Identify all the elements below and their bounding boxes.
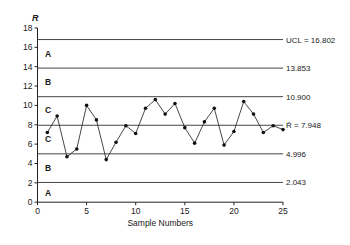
x-axis-title: Sample Numbers	[127, 218, 193, 228]
x-tick-label: 25	[278, 206, 288, 216]
data-point	[173, 102, 177, 106]
data-point	[222, 143, 226, 147]
zone-label-a: A	[45, 188, 51, 198]
data-point	[114, 140, 118, 144]
reference-label-zone-AB-upper: 13.853	[286, 64, 311, 73]
data-point	[85, 104, 89, 108]
y-tick-label: 6	[28, 139, 33, 149]
zone-label-c: C	[45, 105, 51, 115]
reference-label-zone-BC-lower: 4.996	[286, 150, 307, 159]
y-tick-label: 16	[23, 42, 33, 52]
data-point	[212, 107, 216, 111]
zone-label-b: B	[45, 77, 51, 87]
data-point	[65, 155, 69, 159]
y-axis-title: R	[32, 13, 39, 23]
zone-label-b: B	[45, 163, 51, 173]
y-tick-label: 18	[23, 23, 33, 33]
y-tick-label: 8	[28, 120, 33, 130]
data-point	[154, 98, 158, 102]
data-line	[47, 100, 283, 160]
data-point	[75, 147, 79, 151]
data-point	[104, 158, 108, 162]
data-point	[203, 120, 207, 124]
reference-label-center-line: R̄ = 7.948	[286, 121, 321, 130]
data-point	[134, 132, 138, 136]
data-point	[281, 128, 285, 132]
x-tick-label: 10	[131, 206, 141, 216]
x-tick-label: 5	[84, 206, 89, 216]
data-point	[46, 131, 50, 135]
data-point	[242, 100, 246, 104]
data-point	[252, 112, 256, 116]
data-point	[124, 124, 128, 128]
x-tick-label: 20	[229, 206, 239, 216]
data-point	[95, 118, 99, 122]
data-point	[262, 131, 266, 135]
y-tick-label: 10	[23, 100, 33, 110]
zone-label-a: A	[45, 49, 51, 59]
data-point	[183, 126, 187, 130]
data-point	[232, 130, 236, 134]
reference-label-zone-AB-lower: 2.043	[286, 178, 307, 187]
y-tick-label: 4	[28, 158, 33, 168]
y-tick-label: 0	[28, 197, 33, 207]
reference-label-zone-BC-upper: 10.900	[286, 93, 311, 102]
data-point	[55, 114, 59, 118]
chart-svg: 0246810121416180510152025RSample Numbers…	[0, 0, 350, 245]
zone-label-c: C	[45, 134, 51, 144]
y-tick-label: 2	[28, 178, 33, 188]
r-control-chart: 0246810121416180510152025RSample Numbers…	[0, 0, 350, 245]
data-point	[163, 112, 167, 116]
data-point	[144, 107, 148, 111]
y-tick-label: 14	[23, 62, 33, 72]
data-point	[271, 124, 275, 128]
x-tick-label: 15	[180, 206, 190, 216]
y-tick-label: 12	[23, 81, 33, 91]
reference-label-UCL: UCL = 16.802	[286, 36, 336, 45]
data-point	[193, 141, 197, 145]
x-tick-label: 0	[35, 206, 40, 216]
